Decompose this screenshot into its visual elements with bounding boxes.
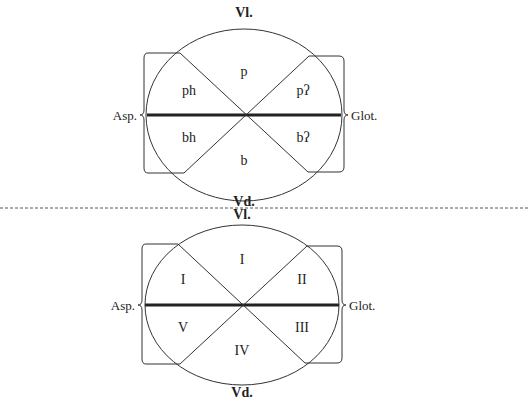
bottom-sector-upper-left: I bbox=[181, 272, 186, 287]
top-asp-label: Asp. bbox=[113, 108, 137, 123]
top-sector-bottom: b bbox=[241, 153, 248, 168]
bottom-sector-upper-right: II bbox=[297, 272, 307, 287]
bottom-sector-bottom: IV bbox=[235, 343, 250, 358]
bottom-glot-label: Glot. bbox=[349, 298, 375, 313]
top-sector-upper-right: pʔ bbox=[296, 83, 309, 98]
top-asp-brace bbox=[140, 53, 184, 173]
bottom-asp-label: Asp. bbox=[111, 298, 135, 313]
diagram-canvas: Vl. Vd. Asp. Glot. p ph pʔ bh bʔ b Vl. V… bbox=[0, 0, 530, 411]
top-sector-lower-right: bʔ bbox=[296, 130, 309, 145]
bottom-vd-label: Vd. bbox=[231, 385, 252, 400]
top-diagram: Vl. Vd. Asp. Glot. p ph pʔ bh bʔ b bbox=[113, 5, 378, 209]
top-sector-top: p bbox=[241, 64, 248, 79]
top-sector-lower-left: bh bbox=[182, 130, 196, 145]
top-sector-upper-left: ph bbox=[182, 83, 196, 98]
top-vl-label: Vl. bbox=[235, 5, 253, 20]
bottom-sector-lower-left: V bbox=[178, 320, 188, 335]
bottom-sector-lower-right: III bbox=[295, 320, 309, 335]
bottom-diagram: Vl. Vd. Asp. Glot. I I II V III IV bbox=[111, 207, 376, 400]
bottom-vl-label: Vl. bbox=[233, 207, 251, 222]
bottom-sector-top: I bbox=[240, 252, 245, 267]
top-glot-label: Glot. bbox=[351, 108, 377, 123]
